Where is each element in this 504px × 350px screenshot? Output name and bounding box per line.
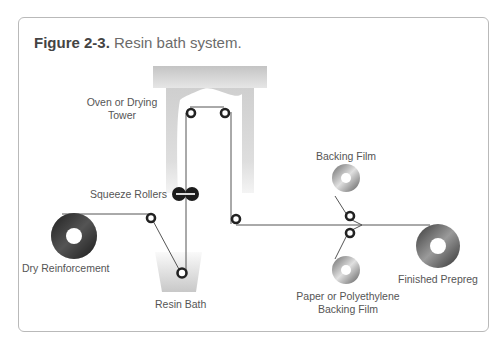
- paper-backing-label: Paper or Polyethylene Backing Film: [290, 290, 406, 316]
- dry-reinforcement-spool-icon: [51, 213, 97, 259]
- oven-label: Oven or Drying Tower: [82, 96, 162, 122]
- finished-prepreg-spool-icon: [416, 224, 460, 268]
- backing-film-label: Backing Film: [316, 150, 376, 163]
- resin-bath-diagram: [0, 0, 504, 350]
- dry-reinforcement-label: Dry Reinforcement: [22, 262, 110, 275]
- finished-prepreg-label: Finished Prepreg: [398, 273, 478, 286]
- backing-film-spool-icon: [332, 164, 360, 192]
- paper-backing-spool-icon: [332, 256, 360, 284]
- resin-bath-label: Resin Bath: [155, 298, 206, 311]
- squeeze-rollers-label: Squeeze Rollers: [90, 188, 167, 201]
- drying-tower: [153, 66, 267, 193]
